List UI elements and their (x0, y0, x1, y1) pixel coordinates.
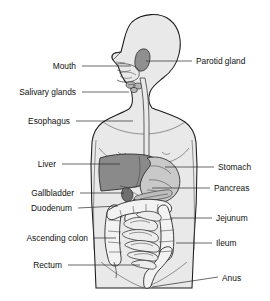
label-rectum: Rectum (33, 260, 62, 270)
label-salivary-glands: Salivary glands (19, 87, 76, 97)
label-esophagus: Esophagus (28, 116, 70, 126)
label-mouth: Mouth (53, 61, 77, 71)
label-liver: Liver (38, 159, 56, 169)
digestive-system-diagram: Mouth Salivary glands Esophagus Liver Ga… (0, 0, 270, 301)
label-anus: Anus (222, 273, 241, 283)
label-jejunum: Jejunum (216, 213, 248, 223)
label-parotid-gland: Parotid gland (196, 56, 246, 66)
label-pancreas: Pancreas (214, 183, 249, 193)
labels-right: Parotid gland Stomach Pancreas Jejunum I… (196, 56, 251, 283)
label-duodenum: Duodenum (31, 203, 72, 213)
label-ileum: Ileum (216, 238, 237, 248)
label-gallbladder: Gallbladder (31, 188, 74, 198)
label-ascending-colon: Ascending colon (27, 233, 89, 243)
labels-left: Mouth Salivary glands Esophagus Liver Ga… (19, 61, 88, 270)
label-stomach: Stomach (218, 162, 251, 172)
